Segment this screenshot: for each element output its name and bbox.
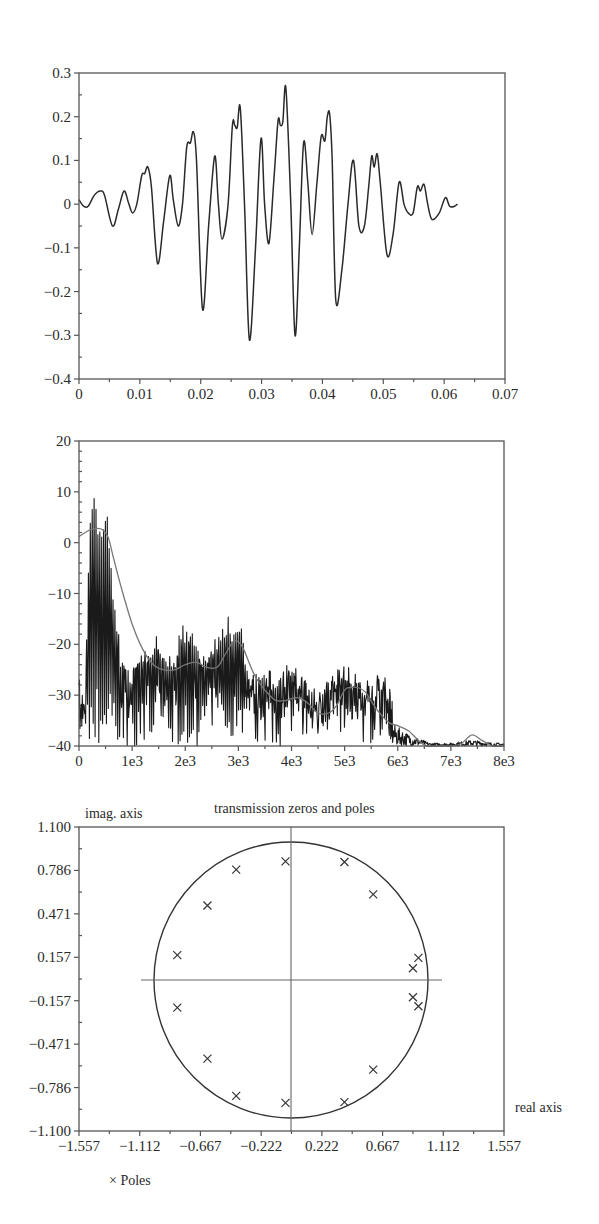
pole-marker-icon (282, 1099, 290, 1107)
waveform-line (79, 85, 458, 340)
x-tick-label: 4e3 (281, 753, 303, 769)
pole-marker-icon (203, 1055, 211, 1063)
y-tick-label: −0.786 (29, 1080, 72, 1096)
y-tick-label: −0.157 (29, 993, 72, 1009)
x-tick-label: 7e3 (440, 753, 462, 769)
y-tick-label: −0.471 (29, 1036, 71, 1052)
waveform-axis-ticks (74, 73, 505, 384)
x-tick-label: 0.07 (492, 386, 519, 402)
poles-legend: × Poles (109, 1173, 151, 1188)
x-tick-label: 0.01 (127, 386, 153, 402)
pole-zero-chart: −1.557−1.112−0.667−0.2220.2220.6671.1121… (29, 801, 562, 1188)
pole-marker-icon (173, 951, 181, 959)
y-tick-label: −10 (48, 586, 71, 602)
pole-marker-icon (232, 866, 240, 874)
y-tick-label: 0.1 (52, 152, 71, 168)
y-tick-label: 1.100 (37, 819, 71, 835)
x-tick-label: 1.557 (487, 1138, 521, 1154)
y-tick-label: 10 (56, 484, 71, 500)
x-tick-label: 0.03 (248, 386, 274, 402)
pole-marker-icon (282, 857, 290, 865)
y-tick-label: −20 (48, 636, 71, 652)
x-tick-label: 6e3 (387, 753, 409, 769)
real-axis-label: real axis (515, 1100, 562, 1115)
pole-marker-icon (340, 858, 348, 866)
x-tick-label: 0.05 (370, 386, 396, 402)
spectrum-chart: 01e32e33e34e35e36e37e38e320100−10−20−30−… (48, 433, 515, 769)
y-tick-label: 0 (64, 535, 72, 551)
y-tick-label: 0.157 (37, 949, 71, 965)
y-tick-label: −0.1 (44, 240, 71, 256)
waveform-tick-labels: 00.010.020.030.040.050.060.070.30.20.10−… (44, 65, 519, 402)
x-tick-label: 1.112 (427, 1138, 460, 1154)
x-tick-label: 3e3 (228, 753, 250, 769)
y-tick-label: 0.3 (52, 65, 71, 81)
y-tick-label: −0.2 (44, 284, 71, 300)
spectrum-raw-line (79, 499, 504, 747)
pole-marker-icon (340, 1098, 348, 1106)
x-tick-label: 0.06 (431, 386, 458, 402)
y-tick-label: 20 (56, 433, 71, 449)
y-tick-label: 0.786 (37, 862, 71, 878)
y-tick-label: 0.2 (52, 109, 71, 125)
pole-zero-title: transmission zeros and poles (214, 801, 375, 816)
x-tick-label: −0.222 (240, 1138, 282, 1154)
waveform-chart: 00.010.020.030.040.050.060.070.30.20.10−… (44, 65, 519, 402)
x-tick-label: −1.112 (119, 1138, 161, 1154)
pole-marker-icon (173, 1004, 181, 1012)
x-tick-label: 0 (75, 753, 83, 769)
pole-zero-tick-labels: −1.557−1.112−0.667−0.2220.2220.6671.1121… (29, 819, 522, 1154)
pole-zero-axis-ticks (74, 827, 504, 1136)
y-tick-label: −40 (48, 738, 71, 754)
x-tick-label: 0 (75, 386, 83, 402)
x-tick-label: 1e3 (121, 753, 143, 769)
y-tick-label: 0.471 (37, 906, 71, 922)
x-tick-label: −1.557 (58, 1138, 101, 1154)
y-tick-label: −0.4 (44, 371, 72, 387)
pole-marker-icon (414, 954, 422, 962)
x-tick-label: −0.667 (179, 1138, 222, 1154)
pole-marker-icon (369, 1066, 377, 1074)
x-tick-label: 8e3 (493, 753, 515, 769)
x-tick-label: 0.222 (305, 1138, 339, 1154)
pole-marker-icon (203, 901, 211, 909)
pole-marker-icon (232, 1092, 240, 1100)
y-tick-label: 0 (64, 196, 72, 212)
x-tick-label: 0.04 (309, 386, 336, 402)
x-tick-label: 0.02 (188, 386, 214, 402)
pole-marker-icon (369, 890, 377, 898)
pole-marker-icon (409, 993, 417, 1001)
pole-marker-icon (409, 964, 417, 972)
x-tick-label: 0.667 (366, 1138, 400, 1154)
y-tick-label: −30 (48, 687, 71, 703)
x-tick-label: 5e3 (334, 753, 356, 769)
x-tick-label: 2e3 (174, 753, 196, 769)
figure: 00.010.020.030.040.050.060.070.30.20.10−… (0, 0, 599, 1224)
imag-axis-label: imag. axis (85, 806, 143, 821)
pole-marker-icon (414, 1002, 422, 1010)
y-tick-label: −0.3 (44, 327, 71, 343)
y-tick-label: −1.100 (29, 1123, 71, 1139)
pole-markers (173, 857, 422, 1106)
